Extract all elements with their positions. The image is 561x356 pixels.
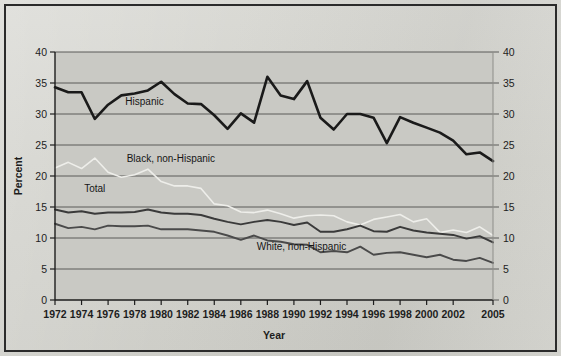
y-tick-label-left: 5 <box>41 263 47 275</box>
x-tick-label: 1988 <box>256 308 280 320</box>
series-label-total: Total <box>84 183 105 194</box>
series-label-black: Black, non-Hispanic <box>127 153 215 164</box>
x-tick-label: 1972 <box>43 308 67 320</box>
y-tick-label-left: 40 <box>35 46 47 58</box>
y-tick-label-right: 10 <box>503 232 515 244</box>
y-tick-label-right: 0 <box>503 294 509 306</box>
y-tick-label-left: 10 <box>35 232 47 244</box>
series-label-white: White, non-Hispanic <box>257 241 346 252</box>
x-tick-label: 1982 <box>176 308 200 320</box>
x-tick-label: 1998 <box>388 308 412 320</box>
x-tick-label: 1996 <box>362 308 386 320</box>
line-chart: 0510152025303540051015202530354019721974… <box>0 0 561 356</box>
y-tick-label-right: 30 <box>503 108 515 120</box>
y-tick-label-left: 30 <box>35 108 47 120</box>
x-tick-label: 1978 <box>123 308 147 320</box>
x-tick-label: 1994 <box>335 308 359 320</box>
y-tick-label-right: 15 <box>503 201 515 213</box>
chart-page: 0510152025303540051015202530354019721974… <box>0 0 561 356</box>
x-tick-label: 2005 <box>481 308 505 320</box>
y-tick-label-right: 5 <box>503 263 509 275</box>
x-tick-label: 1974 <box>70 308 94 320</box>
y-tick-label-left: 20 <box>35 170 47 182</box>
x-tick-label: 1984 <box>203 308 227 320</box>
y-tick-label-right: 40 <box>503 46 515 58</box>
y-tick-label-right: 25 <box>503 139 515 151</box>
x-tick-label: 1976 <box>96 308 120 320</box>
series-label-hispanic: Hispanic <box>125 96 163 107</box>
y-tick-label-right: 20 <box>503 170 515 182</box>
x-tick-label: 1980 <box>150 308 174 320</box>
y-tick-label-left: 35 <box>35 77 47 89</box>
x-tick-label: 2002 <box>442 308 466 320</box>
x-tick-label: 1992 <box>309 308 333 320</box>
y-tick-label-right: 35 <box>503 77 515 89</box>
x-axis-title: Year <box>263 329 285 341</box>
y-tick-label-left: 0 <box>41 294 47 306</box>
y-axis-title: Percent <box>12 156 24 195</box>
y-tick-label-left: 25 <box>35 139 47 151</box>
y-tick-label-left: 15 <box>35 201 47 213</box>
x-tick-label: 2000 <box>415 308 439 320</box>
x-tick-label: 1990 <box>282 308 306 320</box>
x-tick-label: 1986 <box>229 308 253 320</box>
